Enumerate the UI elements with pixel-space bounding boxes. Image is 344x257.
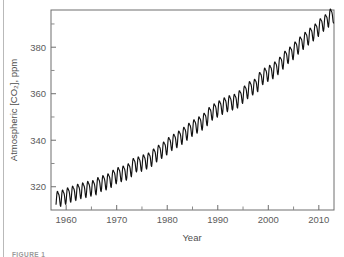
y-tick-label: 360 bbox=[30, 88, 46, 99]
x-tick-label: 2000 bbox=[258, 214, 279, 225]
x-tick-label: 2010 bbox=[308, 214, 329, 225]
x-tick-label: 1990 bbox=[207, 214, 228, 225]
x-axis-title: Year bbox=[182, 232, 201, 243]
figure-panel: 320340360380 196019701980199020002010 Ye… bbox=[0, 0, 344, 257]
figure-caption-label: FIGURE 1 bbox=[12, 251, 45, 257]
y-axis-title: Atmospheric [CO₂], ppm bbox=[8, 59, 19, 161]
y-tick-label: 380 bbox=[30, 42, 46, 53]
plot-background bbox=[51, 10, 334, 210]
co2-line-chart: 320340360380 196019701980199020002010 Ye… bbox=[0, 0, 344, 257]
y-axis-tick-labels: 320340360380 bbox=[30, 42, 46, 193]
x-axis-tick-labels: 196019701980199020002010 bbox=[56, 214, 330, 225]
y-tick-label: 320 bbox=[30, 181, 46, 192]
x-tick-label: 1980 bbox=[157, 214, 178, 225]
chart-canvas: 320340360380 196019701980199020002010 Ye… bbox=[0, 0, 344, 257]
y-tick-label: 340 bbox=[30, 135, 46, 146]
x-tick-label: 1970 bbox=[106, 214, 127, 225]
x-tick-label: 1960 bbox=[56, 214, 77, 225]
